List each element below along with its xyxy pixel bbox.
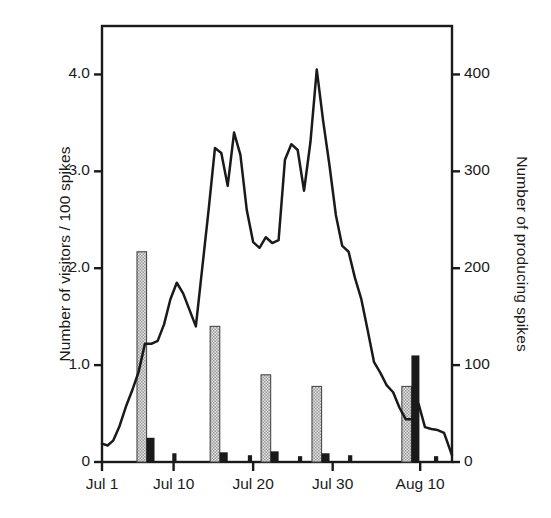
bar-solid-black-thin-4 — [434, 456, 438, 462]
bar-solid-black-thin-3 — [348, 455, 352, 462]
y-tick-label-left-1: 1.0 — [44, 355, 90, 373]
y-tick-label-left-2: 2.0 — [44, 258, 90, 276]
chart-render-group — [94, 26, 460, 471]
y-tick-label-right-0: 0 — [464, 452, 510, 470]
bar-solid-black-thin-1 — [248, 455, 252, 462]
bar-hatched-gray-4 — [402, 386, 412, 462]
y-tick-label-right-3: 300 — [464, 161, 510, 179]
plot-frame — [102, 26, 452, 462]
x-tick-label-4: Aug 10 — [380, 475, 460, 493]
x-tick-label-1: Jul 10 — [134, 475, 214, 493]
bar-solid-black-0 — [147, 438, 155, 462]
bar-solid-black-thin-2 — [298, 456, 302, 462]
y-tick-label-left-0: 0 — [44, 452, 90, 470]
visitors-line — [102, 70, 452, 456]
bar-hatched-gray-3 — [312, 386, 322, 462]
x-tick-label-3: Jul 30 — [293, 475, 373, 493]
figure-container: Number of visitors / 100 spikes Number o… — [0, 0, 551, 518]
y-tick-label-left-3: 3.0 — [44, 161, 90, 179]
y-axis-right-title: Number of producing spikes — [513, 104, 531, 404]
bar-hatched-gray-1 — [210, 326, 220, 462]
bar-solid-black-1 — [220, 452, 228, 462]
x-tick-label-2: Jul 20 — [213, 475, 293, 493]
x-tick-label-0: Jul 1 — [62, 475, 142, 493]
bar-solid-black-thin-0 — [172, 453, 176, 462]
bar-solid-black-3 — [322, 453, 330, 462]
y-tick-label-left-4: 4.0 — [44, 64, 90, 82]
bar-hatched-gray-2 — [261, 375, 271, 462]
y-tick-label-right-2: 200 — [464, 258, 510, 276]
bar-solid-black-2 — [271, 451, 279, 462]
y-tick-label-right-4: 400 — [464, 64, 510, 82]
y-tick-label-right-1: 100 — [464, 355, 510, 373]
